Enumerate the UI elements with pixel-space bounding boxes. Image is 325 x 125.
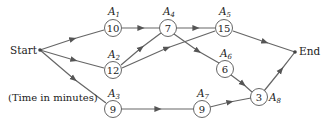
node-value: 7 xyxy=(165,23,171,34)
end-label: End xyxy=(299,45,320,57)
node-value: 9 xyxy=(199,104,205,115)
start-point xyxy=(38,48,42,52)
start-label: Start xyxy=(10,44,38,56)
node-a5: 15 A5 xyxy=(216,5,233,37)
node-label: A4 xyxy=(162,5,175,19)
node-value: 3 xyxy=(256,92,262,103)
edge-a7-a8 xyxy=(210,98,251,107)
edge-a8-end xyxy=(264,52,295,91)
edge-start-a2 xyxy=(40,50,104,68)
node-a2: 12 A2 xyxy=(105,48,122,79)
end-point xyxy=(293,50,297,54)
node-a1: 10 A1 xyxy=(105,5,122,37)
node-value: 10 xyxy=(107,23,120,34)
node-label: A1 xyxy=(107,5,120,19)
node-value: 6 xyxy=(222,64,228,75)
activity-network-diagram: Start End (Time in minutes) 10 A1 12 A2 … xyxy=(0,0,325,125)
edge-a5-end xyxy=(233,31,295,52)
node-a4: 7 A4 xyxy=(160,5,177,37)
diagram-svg: Start End (Time in minutes) 10 A1 12 A2 … xyxy=(0,0,325,125)
node-a3: 9 A3 xyxy=(105,87,122,118)
node-a8: 3 A8 xyxy=(251,89,282,106)
node-label: A6 xyxy=(219,47,233,61)
node-value: 12 xyxy=(107,65,120,76)
node-a6: 6 A6 xyxy=(217,47,234,78)
time-unit-note: (Time in minutes) xyxy=(8,92,98,103)
node-label: A5 xyxy=(218,5,232,19)
edge-a6-a8 xyxy=(231,75,252,92)
node-a7: 9 A7 xyxy=(194,87,211,118)
node-label: A3 xyxy=(107,87,121,101)
edge-start-a1 xyxy=(40,30,104,50)
node-value: 15 xyxy=(218,23,231,34)
node-value: 9 xyxy=(110,104,116,115)
node-label: A7 xyxy=(196,87,210,101)
edge-a4-a6 xyxy=(174,34,219,63)
node-label: A2 xyxy=(107,48,121,62)
node-label: A8 xyxy=(268,91,282,105)
